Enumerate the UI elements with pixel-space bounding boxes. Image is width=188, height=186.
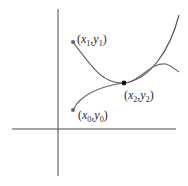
diagram-svg <box>0 0 188 186</box>
label-x0y0: (x0,y0) <box>78 109 108 124</box>
diagram-canvas: (x1,y1) (x2,y2) (x0,y0) <box>0 0 188 186</box>
label-x1y1: (x1,y1) <box>77 33 107 48</box>
label-x2y2: (x2,y2) <box>124 89 154 104</box>
point-x1y1-dot <box>71 40 75 44</box>
point-x2y2-dot <box>122 81 127 86</box>
curve-through-x1y1 <box>73 15 179 83</box>
point-x0y0-dot <box>71 108 75 112</box>
